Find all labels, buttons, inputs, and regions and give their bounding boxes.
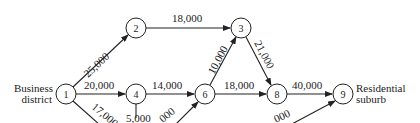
edge-label-in-9: 000 bbox=[272, 107, 292, 123]
edge-label-6-8: 18,000 bbox=[224, 79, 255, 91]
edge-in-6 bbox=[175, 102, 198, 123]
edge-label-3-8: 21,000 bbox=[252, 38, 277, 71]
edge-label-8-9: 40,000 bbox=[292, 79, 323, 91]
node-label-8: 8 bbox=[275, 89, 280, 100]
edge-label-4-6: 14,000 bbox=[152, 79, 183, 91]
edge-label-in-6: 000 bbox=[157, 104, 178, 123]
edge-in-9 bbox=[290, 101, 335, 123]
edge-label-6-3: 10,000 bbox=[205, 43, 230, 76]
edge-label-4-down: 5,000 bbox=[126, 112, 151, 123]
node-label-3: 3 bbox=[239, 23, 244, 34]
edge-label-1-4: 20,000 bbox=[84, 79, 115, 91]
node-label-4: 4 bbox=[134, 89, 139, 100]
node-label-2: 2 bbox=[134, 23, 139, 34]
node-label-1: 1 bbox=[64, 89, 69, 100]
node-label-9: 9 bbox=[341, 89, 346, 100]
sink-label-line2: suburb bbox=[356, 93, 386, 105]
node-label-6: 6 bbox=[203, 89, 208, 100]
network-diagram: 1234689 25,000 20,000 17,000 18,000 14,0… bbox=[0, 0, 420, 123]
edge-label-2-3: 18,000 bbox=[172, 12, 203, 24]
source-label-line2: district bbox=[21, 93, 52, 105]
